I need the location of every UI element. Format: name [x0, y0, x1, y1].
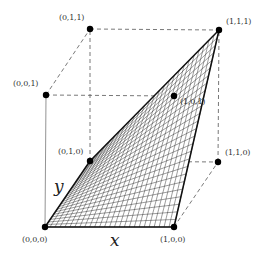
label-1-1-1: (1,1,1): [226, 17, 251, 26]
label-1-0-0: (1,0,0): [160, 235, 185, 244]
label-0-0-1: (0,0,1): [13, 79, 38, 88]
surface-mesh: [45, 30, 219, 227]
vertex-v100: [171, 224, 177, 230]
diagram-canvas: [0, 0, 269, 260]
label-0-0-0: (0,0,0): [22, 235, 47, 244]
cube-diagram: (0,1,1) (1,1,1) (0,0,1) (1,0,1) (0,1,0) …: [0, 0, 269, 260]
vertex-v001: [43, 92, 49, 98]
vertex-v011: [87, 26, 93, 32]
axis-label-y: y: [54, 176, 64, 196]
vertex-v110: [215, 159, 221, 165]
vertex-v010: [87, 158, 93, 164]
label-0-1-0: (0,1,0): [58, 147, 83, 156]
axis-label-x: x: [110, 230, 120, 250]
vertex-v111: [216, 27, 222, 33]
vertex-v101: [171, 93, 177, 99]
label-0-1-1: (0,1,1): [59, 13, 84, 22]
label-1-0-1: (1,0,1): [180, 97, 205, 106]
label-1-1-0: (1,1,0): [225, 148, 250, 157]
vertex-v000: [42, 224, 48, 230]
